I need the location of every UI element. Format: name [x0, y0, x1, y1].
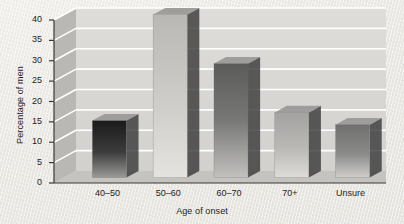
x-category-label: 70+: [282, 188, 297, 198]
y-axis-title: Percentage of men: [15, 40, 25, 170]
bar-side-face: [248, 57, 260, 178]
bar-side-face: [126, 114, 138, 178]
x-category-label: Unsure: [336, 188, 365, 198]
x-category-label: 50–60: [156, 188, 181, 198]
y-tick-label: 0: [20, 177, 42, 187]
y-tick-label: 40: [20, 14, 42, 24]
bar-chart-figure: 0510152025303540 40–5050–6060–7070+Unsur…: [0, 0, 404, 224]
bar-side-face: [187, 8, 199, 178]
x-axis-title: Age of onset: [0, 206, 404, 216]
x-category-label: 40–50: [95, 188, 120, 198]
bar: [275, 112, 309, 177]
x-category-label: 60–70: [216, 188, 241, 198]
bar: [153, 15, 187, 178]
bar-side-face: [309, 106, 321, 178]
bar: [336, 125, 370, 178]
bar: [92, 121, 126, 178]
bar: [214, 64, 248, 178]
bar-side-face: [370, 118, 382, 178]
y-axis-ticks: [49, 20, 54, 183]
